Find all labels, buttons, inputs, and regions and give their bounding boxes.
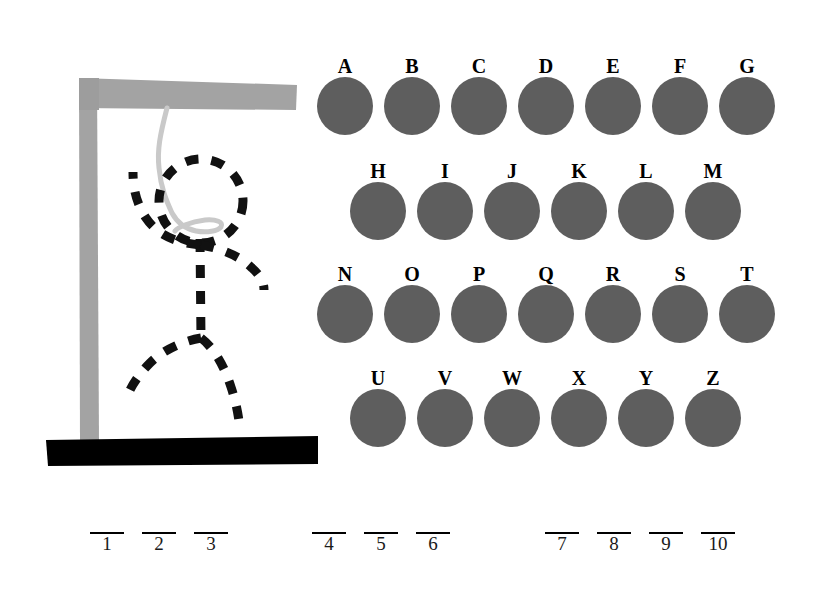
blank-number: 6 xyxy=(416,533,450,555)
letter-key-e[interactable]: E xyxy=(585,55,641,135)
letter-key-m[interactable]: M xyxy=(685,160,741,240)
letter-row-4: U V W X Y Z xyxy=(350,367,741,447)
letter-disc xyxy=(585,285,641,343)
alphabet-keyboard: A B C D E F G xyxy=(305,55,805,480)
letter-key-c[interactable]: C xyxy=(451,55,507,135)
blank-number: 5 xyxy=(364,533,398,555)
blank-number: 8 xyxy=(597,533,631,555)
letter-disc xyxy=(484,389,540,447)
figure-torso xyxy=(200,239,201,338)
letter-key-label: C xyxy=(451,55,507,77)
letter-key-q[interactable]: Q xyxy=(518,263,574,343)
letter-key-label: B xyxy=(384,55,440,77)
letter-disc xyxy=(518,77,574,135)
letter-disc xyxy=(585,77,641,135)
letter-disc xyxy=(618,389,674,447)
blank-slot-8: 8 xyxy=(597,515,631,559)
letter-key-label: D xyxy=(518,55,574,77)
letter-key-h[interactable]: H xyxy=(350,160,406,240)
letter-disc xyxy=(685,389,741,447)
letter-key-label: A xyxy=(317,55,373,77)
figure-right-leg xyxy=(201,338,240,430)
hangman-figure xyxy=(130,159,264,430)
letter-key-label: V xyxy=(417,367,473,389)
letter-key-y[interactable]: Y xyxy=(618,367,674,447)
letter-key-s[interactable]: S xyxy=(652,263,708,343)
letter-key-o[interactable]: O xyxy=(384,263,440,343)
letter-key-label: N xyxy=(317,263,373,285)
letter-key-l[interactable]: L xyxy=(618,160,674,240)
letter-key-d[interactable]: D xyxy=(518,55,574,135)
letter-key-g[interactable]: G xyxy=(719,55,775,135)
blank-slot-10: 10 xyxy=(701,515,735,559)
figure-right-arm xyxy=(201,245,264,290)
letter-key-label: X xyxy=(551,367,607,389)
answer-word-2: 4 5 6 xyxy=(312,515,450,559)
letter-key-label: H xyxy=(350,160,406,182)
letter-disc xyxy=(719,285,775,343)
hangman-game-canvas: A B C D E F G xyxy=(0,0,831,604)
letter-key-label: T xyxy=(719,263,775,285)
blank-number: 3 xyxy=(194,533,228,555)
letter-key-a[interactable]: A xyxy=(317,55,373,135)
gallows-svg xyxy=(0,0,340,500)
letter-key-x[interactable]: X xyxy=(551,367,607,447)
letter-key-i[interactable]: I xyxy=(417,160,473,240)
letter-disc xyxy=(350,389,406,447)
letter-disc xyxy=(417,389,473,447)
letter-key-v[interactable]: V xyxy=(417,367,473,447)
letter-disc xyxy=(518,285,574,343)
letter-key-f[interactable]: F xyxy=(652,55,708,135)
letter-key-k[interactable]: K xyxy=(551,160,607,240)
letter-disc xyxy=(685,182,741,240)
letter-key-z[interactable]: Z xyxy=(685,367,741,447)
letter-key-label: M xyxy=(685,160,741,182)
letter-disc xyxy=(484,182,540,240)
letter-key-label: Z xyxy=(685,367,741,389)
blank-number: 4 xyxy=(312,533,346,555)
letter-key-label: Y xyxy=(618,367,674,389)
letter-key-w[interactable]: W xyxy=(484,367,540,447)
letter-key-t[interactable]: T xyxy=(719,263,775,343)
letter-key-label: G xyxy=(719,55,775,77)
letter-disc xyxy=(417,182,473,240)
blank-number: 10 xyxy=(701,533,735,555)
blank-number: 7 xyxy=(545,533,579,555)
blank-slot-7: 7 xyxy=(545,515,579,559)
letter-key-label: O xyxy=(384,263,440,285)
letter-disc xyxy=(384,77,440,135)
answer-word-3: 7 8 9 10 xyxy=(545,515,735,559)
letter-key-label: S xyxy=(652,263,708,285)
blank-slot-2: 2 xyxy=(142,515,176,559)
letter-disc xyxy=(652,77,708,135)
letter-row-3: N O P Q R S T xyxy=(317,263,775,343)
letter-key-label: R xyxy=(585,263,641,285)
blank-slot-1: 1 xyxy=(90,515,124,559)
figure-left-arm xyxy=(133,172,200,245)
letter-disc xyxy=(350,182,406,240)
letter-key-u[interactable]: U xyxy=(350,367,406,447)
letter-key-label: Q xyxy=(518,263,574,285)
blank-number: 1 xyxy=(90,533,124,555)
letter-key-n[interactable]: N xyxy=(317,263,373,343)
blank-number: 9 xyxy=(649,533,683,555)
letter-disc xyxy=(551,389,607,447)
letter-disc xyxy=(317,285,373,343)
letter-disc xyxy=(551,182,607,240)
gallows-post xyxy=(79,78,99,442)
letter-key-label: E xyxy=(585,55,641,77)
gallows-illustration xyxy=(0,0,340,500)
letter-key-b[interactable]: B xyxy=(384,55,440,135)
blank-slot-4: 4 xyxy=(312,515,346,559)
letter-key-j[interactable]: J xyxy=(484,160,540,240)
letter-key-p[interactable]: P xyxy=(451,263,507,343)
figure-left-leg xyxy=(130,338,201,390)
letter-key-label: P xyxy=(451,263,507,285)
blank-slot-6: 6 xyxy=(416,515,450,559)
letter-disc xyxy=(317,77,373,135)
letter-key-r[interactable]: R xyxy=(585,263,641,343)
gallows-beam xyxy=(79,78,297,110)
letter-key-label: J xyxy=(484,160,540,182)
letter-disc xyxy=(384,285,440,343)
letter-key-label: I xyxy=(417,160,473,182)
